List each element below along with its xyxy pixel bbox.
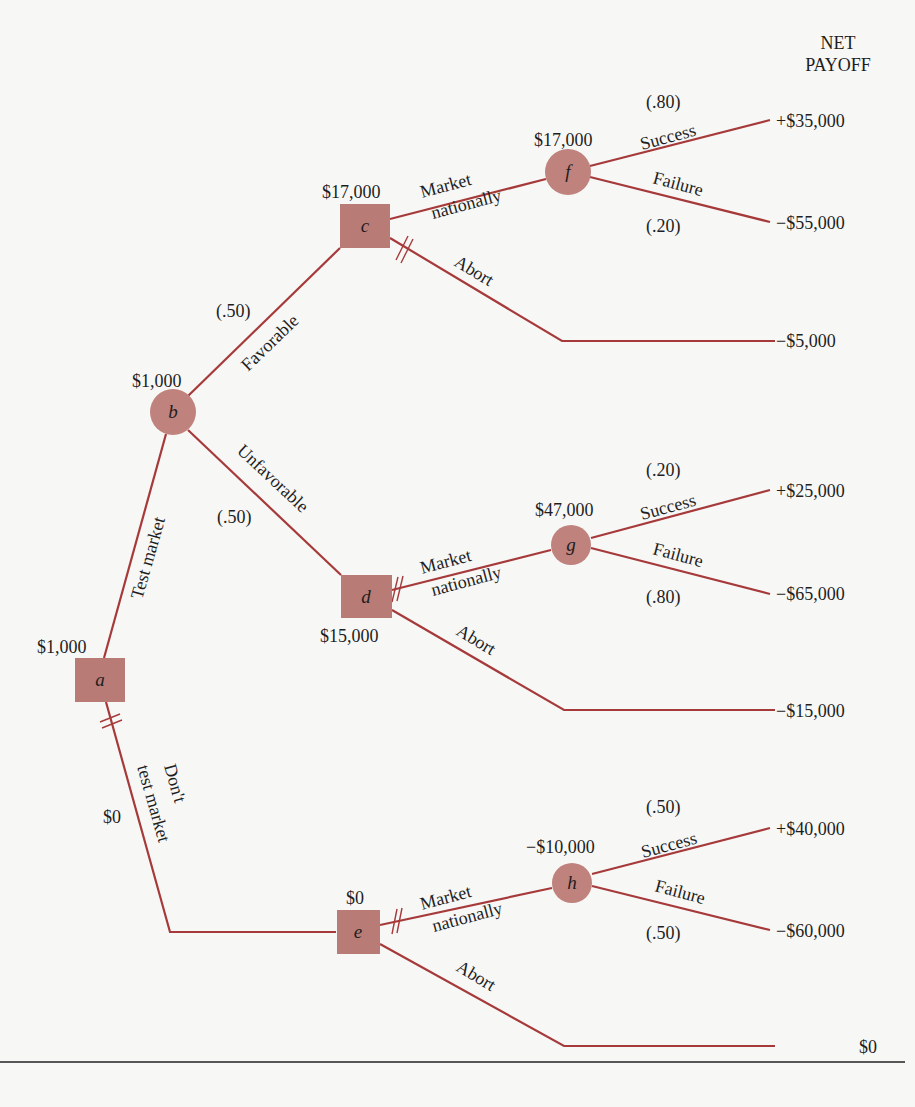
prob-f-success: (.80) (646, 92, 681, 113)
edge-label-test-market: Test market (127, 515, 169, 601)
node-h-value: −$10,000 (526, 837, 595, 857)
prob-unfavorable: (.50) (217, 507, 252, 528)
decision-tree: NET PAYOFF a b c d e f g (0, 0, 915, 1107)
prob-h-success: (.50) (646, 797, 681, 818)
payoff-f-success: +$35,000 (776, 111, 845, 131)
net-payoff-header-line2: PAYOFF (805, 55, 871, 75)
payoff-e-abort: $0 (859, 1037, 877, 1057)
node-c-label: c (361, 215, 370, 236)
edge-d-abort (392, 610, 775, 710)
payoff-f-failure: −$55,000 (776, 213, 845, 233)
edge-e-abort (380, 944, 775, 1046)
edge-label-f-success: Success (638, 120, 698, 154)
prob-favorable: (.50) (216, 301, 251, 322)
node-d-value: $15,000 (320, 626, 379, 646)
edge-favorable (188, 248, 340, 396)
edge-label-h-success: Success (639, 828, 699, 862)
dont-test-value: $0 (103, 807, 121, 827)
payoff-g-failure: −$65,000 (776, 584, 845, 604)
node-b-label: b (168, 401, 178, 422)
net-payoff-header-line1: NET (821, 33, 856, 53)
node-a-value: $1,000 (37, 637, 87, 657)
node-b-value: $1,000 (132, 371, 182, 391)
node-c-value: $17,000 (322, 182, 381, 202)
payoff-c-abort: −$5,000 (776, 331, 836, 351)
node-g-label: g (566, 534, 576, 555)
edge-unfavorable (188, 430, 341, 575)
prob-g-success: (.20) (646, 460, 681, 481)
payoff-d-abort: −$15,000 (776, 701, 845, 721)
edge-c-abort (390, 238, 775, 341)
edge-label-g-success: Success (638, 490, 698, 524)
node-d-label: d (361, 586, 371, 607)
edge-label-d-abort: Abort (453, 620, 499, 659)
payoff-h-success: +$40,000 (776, 819, 845, 839)
node-g-value: $47,000 (535, 500, 594, 520)
edge-label-unfavorable: Unfavorable (233, 440, 312, 516)
prob-g-failure: (.80) (646, 587, 681, 608)
node-e-value: $0 (346, 888, 364, 908)
node-h-label: h (567, 872, 577, 893)
prob-h-failure: (.50) (646, 923, 681, 944)
prob-f-failure: (.20) (646, 216, 681, 237)
payoff-g-success: +$25,000 (776, 481, 845, 501)
payoff-h-failure: −$60,000 (776, 921, 845, 941)
edge-label-dont-test-line1: Don't (160, 762, 190, 805)
edge-dont-test-market (106, 702, 336, 932)
node-e-label: e (354, 921, 362, 942)
node-f-value: $17,000 (534, 130, 593, 150)
node-a-label: a (95, 669, 105, 690)
edge-label-c-abort: Abort (451, 251, 497, 290)
